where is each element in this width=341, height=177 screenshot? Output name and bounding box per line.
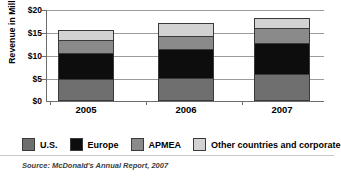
y-tick-label-0: $0 <box>18 97 42 105</box>
chart-legend: U.S. Europe APMEA Other countries and co… <box>22 137 328 152</box>
bar-2006-segment-us <box>159 79 213 100</box>
legend-swatch-europe-icon <box>70 138 83 151</box>
x-tick-label-2006: 2006 <box>151 104 221 115</box>
x-axis-line <box>46 101 324 102</box>
legend-item-apmea: APMEA <box>131 138 182 151</box>
source-note: Source: McDonald's Annual Report, 2007 <box>22 161 168 170</box>
bar-2006 <box>158 23 214 101</box>
bar-2007 <box>254 18 310 101</box>
bar-2007-segment-apmea <box>255 29 309 44</box>
y-tick-label-15: $15 <box>18 29 42 37</box>
y-tick-label-10: $10 <box>18 52 42 60</box>
bar-2005-segment-us <box>59 80 113 100</box>
legend-divider <box>0 155 334 156</box>
y-tick-label-5: $5 <box>18 75 42 83</box>
legend-swatch-us-icon <box>22 138 35 151</box>
x-tick-label-2005: 2005 <box>51 104 121 115</box>
bar-2006-segment-other <box>159 24 213 37</box>
bar-2007-segment-us <box>255 75 309 100</box>
legend-swatch-other-icon <box>193 138 206 151</box>
legend-item-europe: Europe <box>70 138 119 151</box>
bar-2005-segment-europe <box>59 54 113 80</box>
legend-label-us: U.S. <box>40 140 58 150</box>
legend-item-us: U.S. <box>22 138 58 151</box>
plot-area <box>46 10 324 102</box>
y-axis-line <box>46 10 47 102</box>
y-tick-label-20: $20 <box>18 6 42 14</box>
legend-label-apmea: APMEA <box>149 140 182 150</box>
legend-label-europe: Europe <box>88 140 119 150</box>
bar-2007-segment-other <box>255 19 309 29</box>
legend-item-other: Other countries and corporate <box>193 138 341 151</box>
x-tick-label-2007: 2007 <box>247 104 317 115</box>
bar-2005-segment-other <box>59 31 113 41</box>
legend-swatch-apmea-icon <box>131 138 144 151</box>
legend-label-other: Other countries and corporate <box>211 140 341 150</box>
x-axis-tick-labels: 2005 2006 2007 <box>46 104 324 118</box>
gridline-20 <box>46 10 324 11</box>
bar-2006-segment-europe <box>159 50 213 79</box>
bar-2005 <box>58 30 114 101</box>
bar-2007-segment-europe <box>255 44 309 74</box>
y-axis-tick-labels: $20 $15 $10 $5 $0 <box>16 10 42 102</box>
bar-2005-segment-apmea <box>59 41 113 54</box>
bar-2006-segment-apmea <box>159 37 213 50</box>
